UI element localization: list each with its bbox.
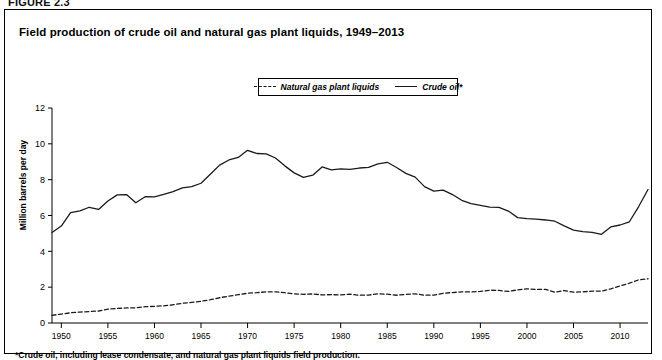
x-axis-tick-label: 2005 <box>564 331 583 341</box>
y-axis-tick-label: 12 <box>35 103 45 113</box>
figure-number-label: FIGURE 2.3 <box>8 0 70 8</box>
x-axis-tick-label: 1995 <box>471 331 490 341</box>
chart-plot-area: 0246810121950195519601965197019751980198… <box>5 10 653 355</box>
x-axis-tick-label: 1960 <box>145 331 164 341</box>
y-axis-tick-label: 8 <box>40 175 45 185</box>
x-axis-tick-label: 1990 <box>424 331 443 341</box>
figure-footnote: *Crude oil, including lease condensate, … <box>15 350 360 360</box>
series-line-natural-gas-plant-liquids <box>52 279 648 316</box>
series-line-crude-oil <box>52 150 648 234</box>
x-axis-tick-label: 1975 <box>285 331 304 341</box>
y-axis-tick-label: 4 <box>40 247 45 257</box>
figure-frame: Field production of crude oil and natura… <box>4 9 652 354</box>
x-axis-tick-label: 1955 <box>98 331 117 341</box>
x-axis-tick-label: 2000 <box>517 331 536 341</box>
x-axis-tick-label: 2010 <box>611 331 630 341</box>
x-axis-tick-label: 1950 <box>52 331 71 341</box>
x-axis-tick-label: 1965 <box>192 331 211 341</box>
y-axis-tick-label: 0 <box>40 318 45 328</box>
y-axis-tick-label: 6 <box>40 211 45 221</box>
x-axis-tick-label: 1980 <box>331 331 350 341</box>
y-axis-tick-label: 2 <box>40 282 45 292</box>
x-axis-tick-label: 1970 <box>238 331 257 341</box>
y-axis-tick-label: 10 <box>35 139 45 149</box>
x-axis-tick-label: 1985 <box>378 331 397 341</box>
